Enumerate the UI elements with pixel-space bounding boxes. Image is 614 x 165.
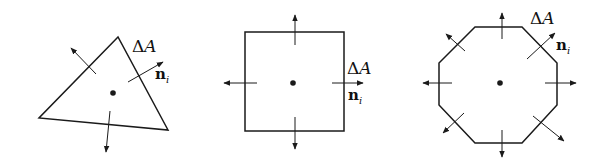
octagon-panel bbox=[423, 13, 576, 157]
delta-symbol: Δ bbox=[530, 8, 542, 28]
normal-arrow-top-left bbox=[446, 34, 465, 51]
area-label: ΔA bbox=[530, 10, 555, 27]
normal-symbol: n bbox=[348, 86, 359, 104]
centroid-dot bbox=[497, 80, 503, 86]
area-label: ΔA bbox=[132, 38, 157, 55]
square-panel bbox=[224, 15, 363, 149]
centroid-dot bbox=[290, 80, 296, 86]
normal-subscript: i bbox=[166, 74, 169, 85]
centroid-dot bbox=[110, 90, 116, 96]
normal-label: ni bbox=[556, 38, 570, 56]
area-variable: A bbox=[144, 36, 156, 56]
normal-label: ni bbox=[348, 88, 362, 106]
area-variable: A bbox=[542, 8, 554, 28]
normal-subscript: i bbox=[567, 45, 570, 56]
normal-arrow-bottom-right bbox=[533, 116, 564, 141]
area-variable: A bbox=[359, 58, 371, 78]
normal-label: ni bbox=[155, 67, 169, 85]
normal-arrow-bottom-left bbox=[443, 113, 464, 133]
diagram-canvas bbox=[0, 0, 614, 165]
area-label: ΔA bbox=[347, 60, 372, 77]
delta-symbol: Δ bbox=[132, 36, 144, 56]
normal-subscript: i bbox=[359, 95, 362, 106]
normal-arrow-left-edge bbox=[71, 48, 96, 74]
normal-symbol: n bbox=[155, 65, 166, 83]
normal-arrow-bottom-edge bbox=[106, 111, 110, 152]
octagon-shape bbox=[439, 27, 557, 143]
normal-symbol: n bbox=[556, 36, 567, 54]
delta-symbol: Δ bbox=[347, 58, 359, 78]
